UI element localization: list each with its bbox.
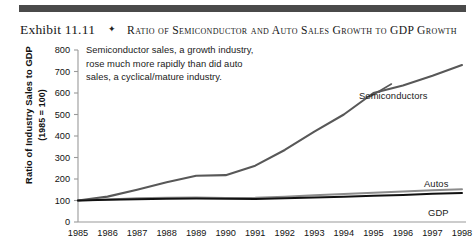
y-tick-label: 400 — [55, 131, 70, 141]
y-tick-label: 600 — [55, 88, 70, 98]
y-axis-title-line2: (1985 = 100) — [36, 30, 49, 200]
x-tick-label: 1992 — [275, 228, 295, 238]
y-tick-label: 300 — [55, 153, 70, 163]
x-tick-label: 1990 — [215, 228, 235, 238]
exhibit-caption: Exhibit 11.11 ✦ Ratio of Semiconductor a… — [20, 20, 470, 38]
diamond-icon: ✦ — [99, 24, 123, 34]
series-label-semiconductors: Semiconductors — [359, 90, 428, 101]
series-label-autos: Autos — [424, 178, 448, 189]
x-tick-label: 1985 — [68, 228, 88, 238]
x-tick-label: 1994 — [334, 228, 354, 238]
chart-annotation: Semiconductor sales, a growth industry, … — [86, 43, 326, 84]
x-tick-label: 1987 — [127, 228, 147, 238]
y-axis-title: Ratio of Industry Sales to GDP (1985 = 1… — [23, 30, 53, 200]
y-axis-title-line1: Ratio of Industry Sales to GDP — [23, 30, 36, 200]
x-tick-label: 1993 — [304, 228, 324, 238]
chart-plot-area: Ratio of Industry Sales to GDP (1985 = 1… — [0, 38, 474, 252]
decorative-top-rule — [19, 5, 466, 12]
data-series-group — [78, 65, 462, 200]
y-tick-label: 200 — [55, 174, 70, 184]
y-tick-label: 800 — [55, 45, 70, 55]
x-tick-label: 1995 — [363, 228, 383, 238]
series-label-gdp: GDP — [428, 207, 449, 218]
annotation-line-1: Semiconductor sales, a growth industry, — [86, 43, 326, 57]
exhibit-title: Ratio of Semiconductor and Auto Sales Gr… — [127, 24, 457, 37]
x-tick-label: 1986 — [97, 228, 117, 238]
x-tick-label: 1998 — [452, 228, 472, 238]
x-tick-label: 1997 — [422, 228, 442, 238]
x-tick-label: 1991 — [245, 228, 265, 238]
x-tick-label: 1996 — [393, 228, 413, 238]
x-tick-label: 1988 — [156, 228, 176, 238]
y-tick-label: 500 — [55, 110, 70, 120]
exhibit-figure: Exhibit 11.11 ✦ Ratio of Semiconductor a… — [0, 0, 474, 252]
x-axis-ticks: 1985198619871988198919901991199219931994… — [68, 228, 472, 238]
series-line-semiconductors — [78, 65, 462, 200]
y-tick-label: 700 — [55, 67, 70, 77]
annotation-line-3: sales, a cyclical/mature industry. — [86, 70, 326, 84]
y-tick-label: 0 — [65, 217, 70, 227]
y-axis-ticks: 0100200300400500600700800 — [55, 45, 78, 227]
y-tick-label: 100 — [55, 196, 70, 206]
x-tick-label: 1989 — [186, 228, 206, 238]
annotation-line-2: rose much more rapidly than did auto — [86, 57, 326, 71]
